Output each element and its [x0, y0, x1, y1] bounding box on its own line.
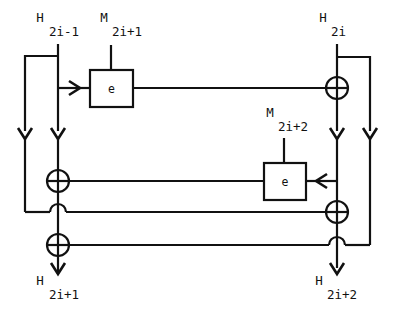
h-in-right-continuation	[337, 139, 370, 245]
label-m-mid-symbol: M	[266, 105, 274, 120]
encrypt-block-middle-label: e	[282, 175, 289, 189]
label-h-in-left-symbol: H	[36, 10, 44, 25]
encrypt-block-middle: e	[264, 163, 306, 200]
label-h-in-right-symbol: H	[319, 10, 327, 25]
label-m-top-symbol: M	[100, 10, 108, 25]
h-out-left-wire	[51, 256, 65, 274]
label-h-out-left-subscript: 2i+1	[49, 287, 79, 302]
label-h-in-left: H 2i-1	[36, 10, 79, 39]
label-m-top-subscript: 2i+1	[112, 24, 142, 39]
label-h-in-left-subscript: 2i-1	[49, 24, 79, 39]
xor-left-lower	[47, 234, 69, 256]
label-m-top: M 2i+1	[100, 10, 142, 39]
label-h-in-right-subscript: 2i	[331, 24, 346, 39]
label-h-in-right: H 2i	[319, 10, 346, 39]
xor-left-upper	[47, 170, 69, 192]
xor-top-right	[326, 77, 348, 99]
encrypt-block-top-label: e	[108, 82, 115, 96]
diagram-canvas: e	[0, 0, 393, 309]
encrypt-block-top: e	[90, 70, 133, 107]
label-m-mid-subscript: 2i+2	[278, 119, 308, 134]
label-h-out-right: H 2i+2	[315, 273, 357, 302]
label-m-mid: M 2i+2	[266, 105, 308, 134]
label-h-out-left: H 2i+1	[36, 273, 79, 302]
feedback-wire-y212	[25, 204, 326, 212]
label-h-out-left-symbol: H	[36, 273, 44, 288]
cipher-diagram: e	[0, 0, 393, 309]
h-in-left-wire	[25, 44, 58, 131]
feedback-wire-y245	[69, 237, 370, 245]
xor-right-middle	[326, 201, 348, 223]
label-h-out-right-subscript: 2i+2	[327, 287, 357, 302]
label-h-out-right-symbol: H	[315, 273, 323, 288]
